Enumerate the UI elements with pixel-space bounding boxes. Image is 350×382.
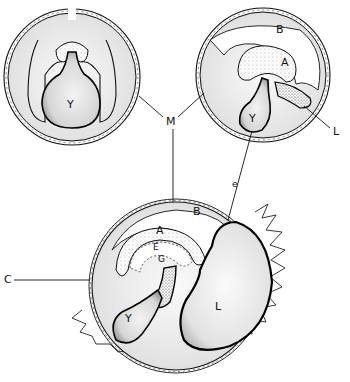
label-B-stage2: B <box>276 23 284 36</box>
leader-M-stage2 <box>178 93 204 117</box>
label-Y-stage2: Y <box>248 112 256 125</box>
label-M-group: M <box>139 93 204 205</box>
label-L-stage3: L <box>215 300 222 313</box>
embryo-membranes-diagram: Y B A Y L M e <box>0 0 350 382</box>
label-A-stage2: A <box>281 56 289 69</box>
stage-1-egg: Y <box>4 8 140 145</box>
label-B-stage3: B <box>193 205 201 218</box>
label-L-stage2: L <box>333 125 340 138</box>
label-Y-stage1: Y <box>66 98 74 111</box>
label-E-stage3: E <box>153 242 159 252</box>
label-e-group: e <box>228 131 252 220</box>
stage-3-egg: B A E G Y L C <box>4 199 285 373</box>
label-G-stage3: G <box>158 254 165 264</box>
label-A-stage3: A <box>156 224 164 237</box>
leader-M-stage1 <box>139 96 163 117</box>
label-Y-stage3: Y <box>124 312 132 325</box>
label-M: M <box>166 115 176 128</box>
label-e: e <box>232 179 238 189</box>
label-C: C <box>4 273 12 286</box>
stage-2-egg: B A Y L <box>196 8 340 142</box>
